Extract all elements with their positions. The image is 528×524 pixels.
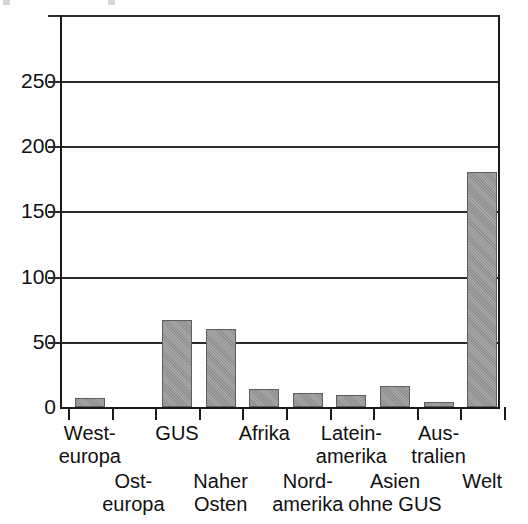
clipped-text-artifact [108, 0, 115, 5]
bar-chart: 250200150100500 West-europaGUSAfrikaLate… [0, 0, 528, 524]
bar-australien [424, 402, 454, 407]
x-label-line1: GUS [155, 422, 198, 444]
bar-welt [467, 172, 497, 407]
bar-naher-osten [206, 329, 236, 407]
bar-gus [162, 320, 192, 407]
x-label-line1: Asien [370, 470, 420, 492]
x-label-welt: Welt [422, 470, 528, 493]
gridline-50 [48, 342, 500, 344]
clipped-text-artifact [3, 0, 10, 5]
bar-afrika [249, 389, 279, 407]
plot-area [60, 15, 500, 409]
bar-asien-ohne-gus [380, 386, 410, 407]
x-label-line2: tralien [379, 445, 499, 468]
x-label-line1: Latein- [321, 422, 382, 444]
bar-west-europa [75, 398, 105, 407]
x-tick-5 [286, 407, 288, 420]
y-axis-line [60, 15, 62, 409]
x-label-line1: Nord- [283, 470, 333, 492]
x-label-aus-: Aus-tralien [379, 422, 499, 468]
gridline-250 [48, 81, 500, 83]
y-tick-label-0: 0 [0, 396, 56, 417]
x-tick-1 [112, 407, 114, 420]
plot-top-border [48, 15, 500, 17]
x-tick-3 [199, 407, 201, 420]
x-label-line1: Naher [193, 470, 247, 492]
x-label-line2: ohne GUS [335, 493, 455, 516]
gridline-150 [48, 211, 500, 213]
x-label-line1: Ost- [115, 470, 153, 492]
x-tick-end [504, 407, 506, 420]
x-label-line1: Welt [462, 470, 502, 492]
x-tick-2 [155, 407, 157, 420]
x-label-line2: europa [30, 445, 150, 468]
x-tick-4 [242, 407, 244, 420]
x-tick-9 [460, 407, 462, 420]
x-label-line1: West- [64, 422, 116, 444]
x-tick-6 [330, 407, 332, 420]
bar-nord-amerika [293, 393, 323, 407]
bar-latein-amerika [336, 395, 366, 407]
x-label-line1: Afrika [239, 422, 290, 444]
right-axis-line [498, 15, 500, 409]
gridline-200 [48, 146, 500, 148]
x-axis-line [60, 407, 500, 409]
x-tick-0 [68, 407, 70, 420]
gridline-100 [48, 277, 500, 279]
x-tick-7 [373, 407, 375, 420]
x-tick-8 [417, 407, 419, 420]
x-label-line1: Aus- [418, 422, 459, 444]
